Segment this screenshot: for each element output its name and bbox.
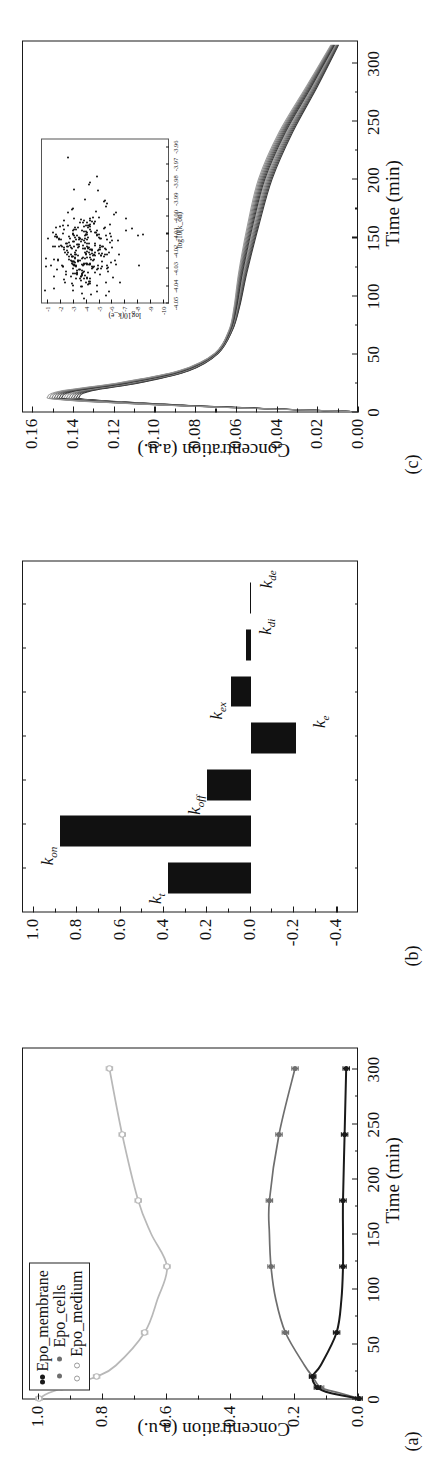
inset-point (72, 289, 74, 291)
panel-c-ytickmark-3 (236, 406, 237, 412)
panel-c-ytick-1: 0.02 (307, 418, 327, 466)
panel-a-x-axis-title: Time (min) (382, 1137, 404, 1223)
inset-point (112, 276, 114, 278)
inset-ytickmark-5 (111, 300, 112, 304)
inset-point (106, 238, 108, 240)
inset-point (103, 227, 105, 229)
inset-x-axis-title: log10(k_on) (175, 211, 184, 248)
inset-point (108, 251, 110, 253)
panel-c: -4.05-4.04-4.03-4.02-4.01-4.00-3.99-3.98… (0, 0, 440, 504)
inset-point (81, 269, 83, 271)
inset-point (105, 234, 107, 236)
inset-point (54, 235, 56, 237)
inset-point (114, 259, 116, 261)
panel-c-xtickmark-5 (352, 120, 358, 121)
inset-point (94, 242, 96, 244)
inset-point (89, 277, 91, 279)
inset-point (105, 281, 107, 283)
inset-ytick-4: -5 (95, 306, 102, 320)
inset-point (44, 289, 46, 291)
panel-a-ytickmark-4 (102, 1393, 103, 1399)
panel-b-ytick-6: 0.8 (66, 918, 86, 960)
panel-a-ytick-0: 0.0 (348, 1405, 368, 1443)
panel-a-xtick-0: 0 (364, 1395, 384, 1404)
inset-point (84, 274, 86, 276)
inset-point (69, 244, 71, 246)
inset-point (83, 219, 85, 221)
panel-b-ytick-2: 0.0 (240, 918, 260, 960)
inset-point (102, 245, 104, 247)
panel-b-plot-area: ktkonkoffkekexkdikde (22, 560, 358, 912)
panel-c-xtick-4: 200 (364, 166, 384, 192)
inset-point (113, 214, 115, 216)
panel-c-y-axis-title: Concentration (a.u.) (138, 438, 290, 460)
panel-c-yminor (297, 409, 298, 413)
inset-point (87, 271, 89, 273)
panel-c-ytickmark-1 (317, 406, 318, 412)
panel-c-inset-plot (41, 138, 169, 303)
legend-item-epo-medium: Epo_medium (68, 1270, 85, 1384)
inset-xtickmark-3 (166, 250, 170, 251)
panel-b-ytick-5: 0.6 (110, 918, 130, 960)
inset-point (106, 202, 108, 204)
inset-ytickmark-7 (137, 300, 138, 304)
inset-point (67, 211, 69, 213)
inset-point (86, 233, 88, 235)
inset-point (89, 253, 91, 255)
inset-point (137, 234, 139, 236)
inset-point (70, 275, 72, 277)
panel-a-xtick-4: 200 (364, 1166, 384, 1192)
inset-point (89, 263, 91, 265)
panel-a-xtickmark-4 (352, 1178, 358, 1179)
inset-point (88, 224, 90, 226)
panel-c-ytick-7: 0.14 (63, 418, 83, 466)
inset-xtick-7: -3.98 (172, 175, 179, 188)
inset-point (62, 232, 64, 234)
inset-point (98, 233, 100, 235)
inset-point (74, 261, 76, 263)
inset-point (83, 239, 85, 241)
panel-a-yminor (326, 1396, 327, 1400)
inset-point (119, 281, 121, 283)
panel-c-xtick-1: 50 (364, 345, 384, 362)
inset-point (67, 156, 69, 158)
legend-marker-epo-cells (57, 1350, 62, 1384)
inset-xtickmark-1 (166, 285, 170, 286)
panel-b-xminor-top (22, 691, 26, 692)
inset-point (82, 256, 84, 258)
inset-point (90, 230, 92, 232)
panel-c-xtick-3: 150 (364, 225, 384, 251)
inset-point (98, 216, 100, 218)
inset-point (65, 270, 67, 272)
panel-b-xminor-top (22, 823, 26, 824)
inset-point (64, 251, 66, 253)
panel-b-xminor (355, 691, 359, 692)
inset-point (76, 269, 78, 271)
panel-a-xtickmark-3 (352, 1233, 358, 1234)
inset-point (73, 234, 75, 236)
inset-point (78, 243, 80, 245)
legend-item-epo-membrane: Epo_membrane (34, 1270, 51, 1384)
panel-a-xtick-1: 50 (364, 1335, 384, 1352)
inset-point (53, 287, 55, 289)
panel-c-xtick-5: 250 (364, 108, 384, 134)
inset-ytickmark-0 (47, 300, 48, 304)
inset-point (88, 251, 90, 253)
inset-point (60, 244, 62, 246)
panel-b-ytick-3: 0.2 (196, 918, 216, 960)
panel-b-ytick-7: 1.0 (23, 918, 43, 960)
inset-point (93, 222, 95, 224)
inset-point (111, 239, 113, 241)
inset-point (81, 229, 83, 231)
panel-a-xtickmark-2 (352, 1288, 358, 1289)
panel-b-yminor (228, 909, 229, 913)
inset-point (92, 216, 94, 218)
panel-c-xminor (355, 149, 359, 150)
panel-a-xminor (355, 1260, 359, 1261)
panel-a-ytickmark-5 (38, 1393, 39, 1399)
inset-point (45, 266, 47, 268)
inset-point (110, 235, 112, 237)
panel-c-xminor (355, 382, 359, 383)
panel-a-xminor (355, 1095, 359, 1096)
panel-b-ytickmark-4 (163, 906, 164, 912)
